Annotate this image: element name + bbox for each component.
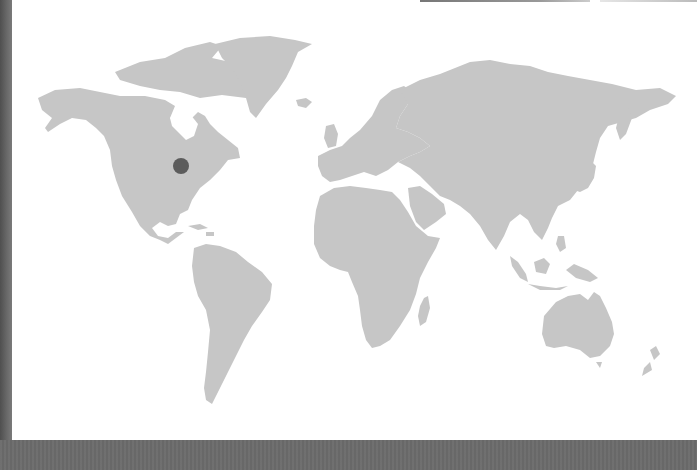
australia bbox=[542, 292, 614, 358]
indonesia bbox=[510, 256, 598, 290]
new-zealand bbox=[642, 346, 660, 376]
world-map bbox=[0, 0, 697, 440]
philippines bbox=[556, 236, 566, 252]
south-america bbox=[192, 244, 272, 404]
location-marker[interactable] bbox=[173, 158, 189, 174]
frame-bottom-edge bbox=[0, 440, 697, 470]
caribbean-islands bbox=[188, 224, 214, 236]
north-america bbox=[38, 88, 240, 244]
tasmania bbox=[596, 362, 602, 368]
asia bbox=[396, 60, 676, 250]
iceland bbox=[296, 98, 312, 108]
madagascar bbox=[418, 296, 430, 326]
united-kingdom bbox=[324, 124, 338, 148]
